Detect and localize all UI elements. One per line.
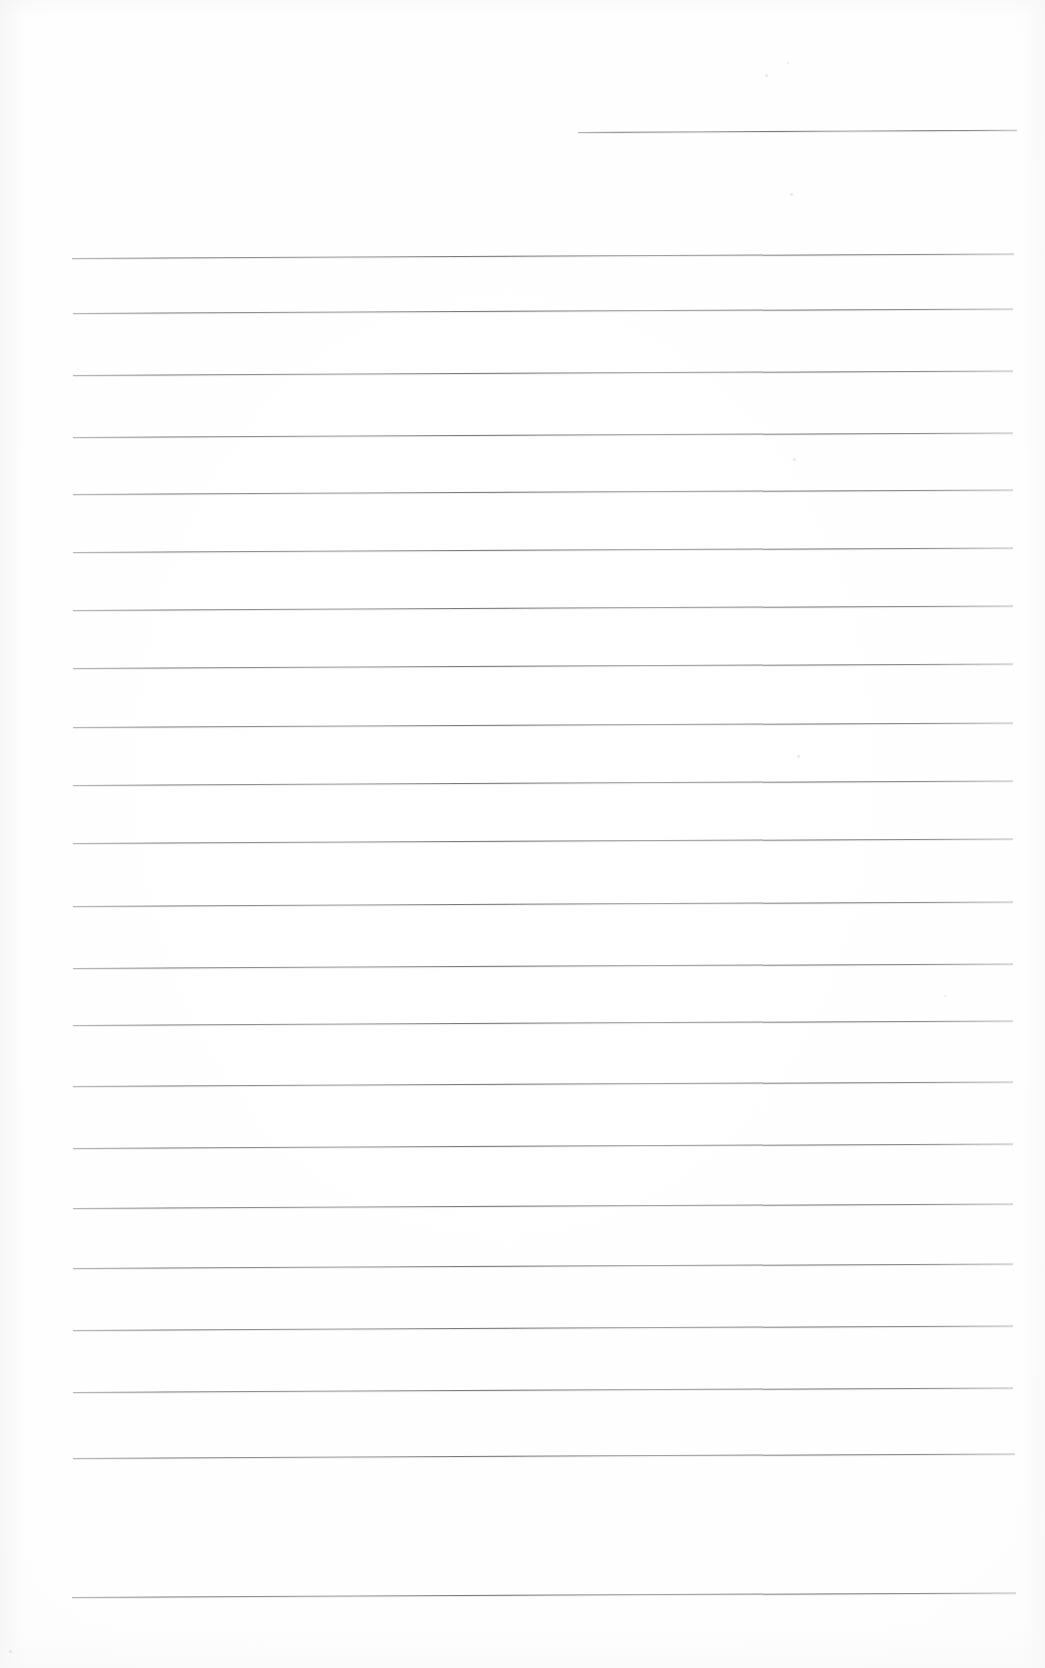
ruled-line bbox=[73, 1081, 1013, 1087]
ruled-line bbox=[73, 432, 1013, 438]
ruled-line bbox=[73, 370, 1013, 376]
scan-edge-shading-bottom bbox=[0, 1628, 1045, 1668]
scan-speck bbox=[793, 458, 796, 461]
scan-edge-shading-left bbox=[0, 0, 26, 1668]
ruled-line bbox=[578, 130, 1017, 133]
ruled-line bbox=[73, 780, 1013, 786]
ruled-line bbox=[72, 253, 1014, 259]
scan-speck bbox=[9, 1650, 12, 1653]
ruled-line bbox=[73, 547, 1013, 553]
ruled-line-ink bbox=[72, 1592, 1016, 1598]
ruled-line bbox=[73, 663, 1013, 669]
ruled-line-ink bbox=[73, 663, 1013, 669]
ruled-line-ink bbox=[73, 1387, 1013, 1393]
ruled-line bbox=[73, 1143, 1013, 1149]
ruled-line bbox=[72, 1592, 1016, 1598]
ruled-line-ink bbox=[73, 1263, 1013, 1269]
ruled-line-ink bbox=[73, 432, 1013, 438]
ruled-line bbox=[73, 605, 1013, 611]
scanned-page bbox=[0, 0, 1045, 1668]
ruled-line bbox=[73, 1325, 1013, 1331]
ruled-line-ink bbox=[73, 370, 1013, 376]
ruled-line bbox=[73, 1387, 1013, 1393]
ruled-line-ink bbox=[73, 489, 1013, 495]
scan-speck bbox=[790, 193, 793, 196]
scan-speck bbox=[765, 74, 768, 77]
ruled-line-ink bbox=[73, 722, 1013, 728]
ruled-line bbox=[73, 838, 1013, 844]
ruled-line-ink bbox=[73, 1203, 1013, 1209]
ruled-line-ink bbox=[73, 1081, 1013, 1087]
ruled-line-ink bbox=[73, 547, 1013, 553]
ruled-line bbox=[73, 1203, 1013, 1209]
ruled-line-ink bbox=[73, 1453, 1015, 1459]
scan-edge-shading-right bbox=[1021, 0, 1045, 1668]
ruled-line-ink bbox=[73, 963, 1013, 969]
ruled-line-ink bbox=[72, 253, 1014, 259]
scan-speck bbox=[944, 995, 946, 997]
ruled-line-ink bbox=[73, 780, 1013, 786]
scan-speck bbox=[787, 62, 789, 64]
ruled-line bbox=[73, 901, 1013, 907]
ruled-line-ink bbox=[73, 1143, 1013, 1149]
ruled-line bbox=[73, 489, 1013, 495]
ruled-line-ink bbox=[73, 1020, 1013, 1026]
ruled-line-ink bbox=[73, 838, 1013, 844]
paper-surface bbox=[0, 0, 1045, 1668]
ruled-line-ink bbox=[73, 901, 1013, 907]
ruled-line bbox=[73, 308, 1013, 314]
ruled-line-ink bbox=[73, 605, 1013, 611]
ruled-line-ink bbox=[578, 130, 1017, 133]
ruled-line bbox=[73, 722, 1013, 728]
ruled-line bbox=[73, 1263, 1013, 1269]
scan-edge-shading-top bbox=[0, 0, 1045, 18]
ruled-line-ink bbox=[73, 1325, 1013, 1331]
scan-speck bbox=[797, 755, 800, 758]
ruled-line-ink bbox=[73, 308, 1013, 314]
ruled-line bbox=[73, 1453, 1015, 1459]
ruled-line bbox=[73, 1020, 1013, 1026]
ruled-line bbox=[73, 963, 1013, 969]
